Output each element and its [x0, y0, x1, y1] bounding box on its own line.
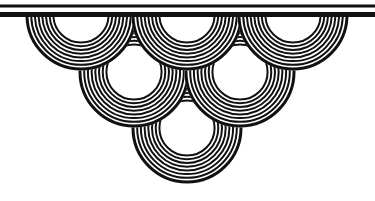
scallop-ornament [0, 0, 375, 201]
thin-rule [0, 5, 375, 8]
horizontal-rules [0, 0, 375, 17]
thick-rule [0, 12, 375, 17]
